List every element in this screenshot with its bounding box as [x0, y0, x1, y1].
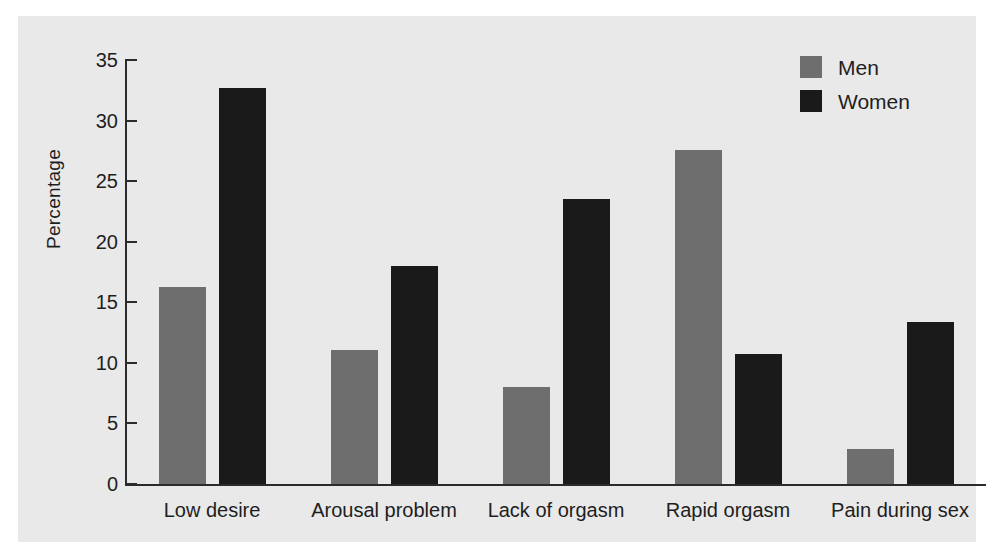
legend-label: Women [838, 91, 910, 112]
legend-item-women: Women [800, 84, 970, 118]
y-axis-tick-label: 35 [72, 50, 118, 70]
y-axis-tick-labels: 05101520253035 [58, 16, 118, 556]
bar-men-pain-during-sex [847, 449, 894, 484]
legend-item-men: Men [800, 50, 970, 84]
plot-area [126, 60, 986, 484]
y-axis-tick-label: 20 [72, 232, 118, 252]
bar-women-rapid-orgasm [735, 354, 782, 484]
bar-men-rapid-orgasm [675, 150, 722, 484]
y-axis-tick-label: 30 [72, 111, 118, 131]
y-axis-tick-label: 0 [72, 474, 118, 494]
legend-swatch-icon [800, 56, 822, 78]
bar-women-low-desire [219, 88, 266, 484]
y-axis-tick-label: 25 [72, 171, 118, 191]
y-axis-tick-label: 10 [72, 353, 118, 373]
bar-men-lack-of-orgasm [503, 387, 550, 484]
legend-label: Men [838, 57, 879, 78]
legend-swatch-icon [800, 90, 822, 112]
y-axis-tick-label: 5 [72, 413, 118, 433]
bar-women-arousal-problem [391, 266, 438, 484]
y-axis-tick-label: 15 [72, 292, 118, 312]
bar-men-low-desire [159, 287, 206, 484]
x-axis-category-label: Pain during sex [790, 500, 994, 520]
bar-women-pain-during-sex [907, 322, 954, 484]
x-axis-line [125, 484, 986, 486]
bar-men-arousal-problem [331, 350, 378, 484]
chart-figure: Percentage 05101520253035 Low desireArou… [0, 0, 994, 556]
chart-panel: Percentage 05101520253035 Low desireArou… [18, 16, 976, 542]
bar-women-lack-of-orgasm [563, 199, 610, 484]
chart-legend: MenWomen [800, 50, 970, 118]
